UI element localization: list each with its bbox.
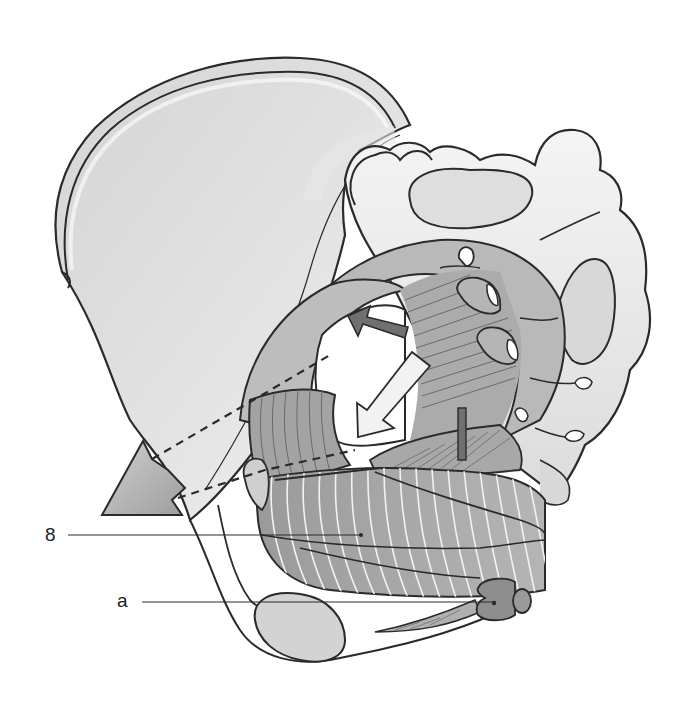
label-8: 8	[45, 524, 56, 546]
anatomical-illustration	[0, 0, 693, 705]
label-a: a	[117, 590, 128, 612]
force-bar	[458, 408, 466, 460]
